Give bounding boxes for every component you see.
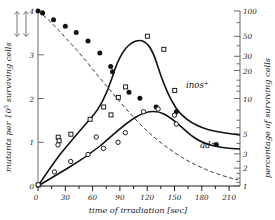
bottom-tick-60: 60 (88, 193, 98, 202)
inos-points (36, 34, 177, 187)
left-axis-label-tail: surviving cells (3, 42, 13, 104)
left-ticks (38, 11, 44, 186)
left-tick-0: 0 (29, 182, 34, 191)
data-point (63, 24, 68, 29)
data-point (86, 152, 90, 156)
data-point (69, 132, 73, 136)
data-point (162, 47, 166, 51)
arrow-markers (14, 11, 28, 36)
ad-label-text: ad (200, 140, 211, 150)
inos-label-text: inos (186, 80, 204, 90)
left-tick-4: 4 (28, 7, 34, 16)
data-point (137, 96, 142, 101)
bottom-tick-120: 120 (140, 193, 154, 202)
right-tick-2: 2 (242, 164, 248, 173)
data-point (74, 30, 79, 35)
right-axis-label-text: percentage of surviving cells (262, 58, 272, 178)
bottom-tick-90: 90 (115, 193, 125, 202)
bottom-axis-label: time of irradiation [sec] (89, 205, 188, 215)
right-tick-3: 3 (243, 150, 248, 159)
left-axis-label-main: mutants per 10 (3, 108, 13, 172)
data-point (172, 113, 176, 117)
data-point (110, 69, 115, 74)
data-point (108, 64, 113, 69)
data-point (51, 17, 56, 22)
svg-text:mutants per 105 surviving cell: mutants per 105 surviving cells (3, 42, 13, 172)
data-point (124, 85, 128, 89)
right-tick-labels: 100 50 30 20 10 5 3 2 1 (242, 7, 257, 191)
bottom-tick-150: 150 (168, 193, 182, 202)
left-axis-label: mutants per 105 surviving cells (3, 42, 13, 172)
data-point (57, 139, 61, 143)
data-point (40, 11, 45, 16)
data-point (116, 140, 120, 144)
right-tick-100: 100 (243, 7, 257, 16)
data-point (145, 34, 149, 38)
bottom-tick-30: 30 (61, 193, 71, 202)
ad-label-superscript: + (211, 140, 216, 146)
ad-curve-label: ad+ (200, 140, 216, 150)
right-ticks (234, 11, 240, 186)
survival-points (36, 9, 219, 148)
svg-text:time of irradiation [sec]: time of irradiation [sec] (89, 205, 188, 215)
data-point (102, 105, 106, 109)
figure-root: mutants per 105 surviving cells (0, 0, 275, 220)
right-tick-50: 50 (243, 32, 253, 41)
left-tick-3: 3 (29, 51, 34, 60)
data-point (86, 39, 91, 44)
bottom-axis-label-main: time of irradiation (89, 205, 165, 215)
chart-svg: mutants per 105 surviving cells (0, 0, 275, 220)
data-point (94, 135, 98, 139)
data-point (141, 110, 145, 114)
data-point (127, 90, 132, 95)
bottom-tick-0: 0 (34, 193, 39, 202)
svg-text:ad+: ad+ (200, 140, 216, 150)
data-point (174, 122, 178, 126)
right-tick-30: 30 (243, 52, 253, 61)
inos-curve-label: inos+ (186, 80, 209, 90)
data-point (101, 146, 105, 150)
data-point (88, 117, 92, 121)
left-tick-labels: 0 1 2 3 4 (28, 7, 34, 191)
data-point (123, 131, 127, 135)
data-point (56, 143, 60, 147)
survival-fit-curve (38, 11, 238, 180)
data-point (97, 50, 102, 55)
data-point (52, 170, 56, 174)
right-tick-5: 5 (243, 130, 248, 139)
right-tick-10: 10 (243, 95, 253, 104)
left-tick-2: 2 (28, 95, 34, 104)
data-point (173, 88, 177, 92)
data-point (109, 113, 113, 117)
data-point (36, 183, 40, 187)
data-point (69, 159, 73, 163)
right-tick-20: 20 (242, 67, 253, 76)
bottom-ticks (38, 186, 229, 191)
bottom-tick-180: 180 (195, 193, 209, 202)
svg-text:inos+: inos+ (186, 80, 209, 90)
inos-fit-curve (38, 40, 240, 186)
bottom-axis-label-unit: [sec] (167, 205, 188, 215)
data-point (116, 95, 120, 99)
data-point (36, 9, 41, 14)
right-tick-1: 1 (243, 182, 248, 191)
bottom-tick-210: 210 (221, 193, 236, 202)
inos-label-superscript: + (204, 80, 209, 86)
right-axis-label: percentage of surviving cells (262, 58, 272, 178)
bottom-tick-labels: 0 30 60 90 120 150 180 210 (34, 193, 237, 202)
data-point (156, 107, 160, 111)
left-tick-1: 1 (29, 138, 34, 147)
